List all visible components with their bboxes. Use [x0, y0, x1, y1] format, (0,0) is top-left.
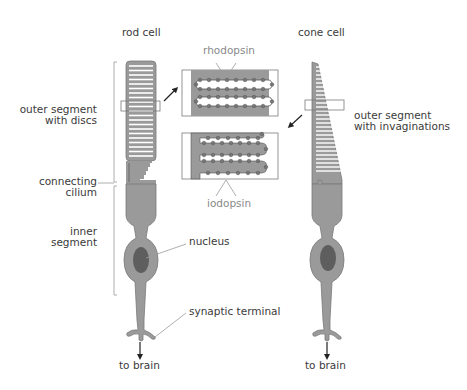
rhodopsin-inset [182, 63, 278, 116]
cone-inset-arrow [290, 115, 302, 126]
rod-cell [121, 61, 160, 357]
rod-cell-title: rod cell [122, 27, 161, 38]
iodopsin-inset [182, 132, 278, 196]
nucleus-label: nucleus [189, 236, 230, 247]
rod-outer-segment-label-2: with discs [45, 115, 97, 126]
connecting-cilium-label-2: cilium [66, 187, 97, 198]
iodopsin-label: iodopsin [207, 198, 251, 209]
cone-nucleus [320, 245, 336, 271]
rod-brackets [98, 62, 117, 295]
rhodopsin-label: rhodopsin [203, 45, 255, 56]
cone-cell [305, 62, 344, 357]
rod-inset-arrow [164, 89, 176, 101]
cone-cell-title: cone cell [298, 27, 345, 38]
cone-invaginations [316, 67, 341, 171]
rod-nucleus [133, 247, 149, 273]
cone-to-brain-label: to brain [305, 360, 346, 371]
rod-to-brain-label: to brain [119, 360, 160, 371]
inner-segment-label-2: segment [51, 237, 97, 248]
cone-outer-segment-label-2: with invaginations [354, 121, 450, 132]
synaptic-terminal-label: synaptic terminal [189, 306, 280, 317]
